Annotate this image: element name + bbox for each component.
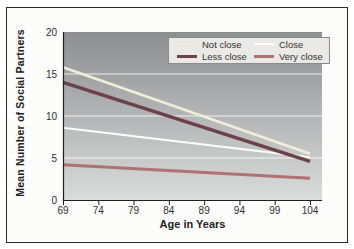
x-tick-label: 84	[163, 205, 175, 216]
legend-label: Not close	[202, 39, 242, 50]
legend-swatch-less-close	[177, 55, 197, 58]
y-tick-label: 10	[46, 111, 58, 122]
figure: 6974798489949910405101520 Mean Number of…	[0, 0, 354, 249]
y-tick-label: 15	[46, 69, 58, 80]
y-tick-label: 0	[51, 195, 57, 206]
legend-item-not-close: Not close	[177, 39, 254, 50]
y-tick-label: 20	[46, 27, 58, 38]
x-tick-label: 99	[269, 205, 281, 216]
legend-item-less-close: Less close	[177, 51, 254, 62]
legend-item-close: Close	[254, 39, 325, 50]
legend-label: Close	[279, 39, 303, 50]
x-tick-label: 79	[128, 205, 140, 216]
x-tick-label: 74	[93, 205, 105, 216]
legend-swatch-close	[254, 43, 274, 45]
x-tick-label: 69	[57, 205, 69, 216]
legend-item-very-close: Very close	[254, 51, 325, 62]
legend-label: Very close	[279, 51, 323, 62]
x-tick-label: 104	[302, 205, 319, 216]
legend: Not closeCloseLess closeVery close	[168, 37, 330, 64]
legend-swatch-not-close	[177, 43, 197, 45]
y-axis-title: Mean Number of Social Partners	[14, 29, 26, 197]
x-axis-title: Age in Years	[63, 218, 322, 230]
x-tick-label: 89	[199, 205, 211, 216]
x-tick-label: 94	[234, 205, 246, 216]
legend-label: Less close	[202, 51, 247, 62]
legend-swatch-very-close	[254, 55, 274, 58]
y-tick-label: 5	[51, 153, 57, 164]
